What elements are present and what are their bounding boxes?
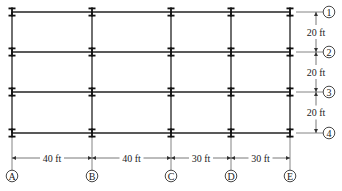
grid-bubble-B: B (86, 170, 98, 182)
dimension-label: 20 ft (307, 27, 326, 38)
grid-bubble-label: C (168, 171, 175, 182)
vertical-dimensions: 20 ft20 ft20 ft (296, 12, 326, 133)
grid-bubble-label: D (227, 171, 234, 182)
grid-bubble-label: B (89, 171, 96, 182)
dimension-label: 30 ft (192, 153, 211, 164)
grid-bubble-4: 4 (323, 127, 335, 139)
grid-bubble-1: 1 (323, 6, 335, 18)
grid-bubble-2: 2 (323, 46, 335, 58)
dimension-label: 40 ft (43, 153, 62, 164)
grid-bubble-label: 1 (327, 7, 332, 18)
dimension-label: 40 ft (122, 153, 141, 164)
column-markers (9, 8, 294, 138)
grid-bubble-D: D (225, 170, 237, 182)
grid-bubble-label: A (8, 171, 16, 182)
column-grid-bubbles: ABCDE (6, 170, 296, 182)
grid-bubble-C: C (165, 170, 177, 182)
dimension-label: 20 ft (307, 67, 326, 78)
dimension-label: 30 ft (251, 153, 270, 164)
grid-bubble-label: E (287, 171, 293, 182)
grid-bubble-E: E (284, 170, 296, 182)
grid-bubble-label: 4 (327, 128, 332, 139)
grid-bubble-label: 3 (327, 87, 332, 98)
grid-bubble-3: 3 (323, 86, 335, 98)
grid-bubble-A: A (6, 170, 18, 182)
dimension-label: 20 ft (307, 107, 326, 118)
grid-bubble-label: 2 (327, 47, 332, 58)
framing-plan: 40 ft40 ft30 ft30 ft 20 ft20 ft20 ft ABC… (0, 0, 342, 191)
beam-grid (12, 12, 290, 133)
horizontal-dimensions: 40 ft40 ft30 ft30 ft (12, 138, 290, 170)
